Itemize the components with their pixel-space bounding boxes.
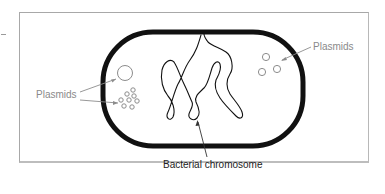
label-plasmids-right: Plasmids	[313, 41, 354, 52]
leader-line-chromosome	[196, 120, 208, 157]
bacterial-chromosome	[161, 34, 242, 120]
bacterial-cell-diagram: Plasmids Plasmids Bacterial chromosome	[0, 0, 385, 194]
plasmid-cluster-right	[258, 53, 280, 75]
leader-lines-left	[80, 79, 118, 105]
label-bacterial-chromosome: Bacterial chromosome	[163, 159, 263, 170]
plasmid-large	[118, 66, 133, 81]
label-plasmids-left: Plasmids	[36, 89, 77, 100]
plasmid-cluster-left	[119, 88, 139, 109]
